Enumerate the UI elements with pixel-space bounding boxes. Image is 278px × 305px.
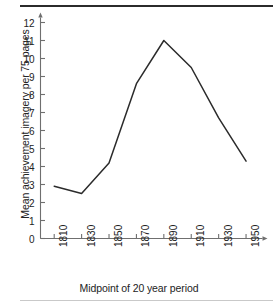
x-axis-arrow-icon <box>263 236 268 240</box>
x-tick-label: 1910 <box>195 224 206 246</box>
x-tick-label: 1950 <box>250 224 261 246</box>
x-tick-label: 1830 <box>86 224 97 246</box>
y-axis-tick-marks <box>41 23 46 239</box>
line-chart-plot <box>0 0 278 305</box>
x-axis-title: Midpoint of 20 year period <box>0 282 278 294</box>
y-tick-label: 12 <box>13 17 35 28</box>
y-axis-title: Mean achievement imagery per 75 pages <box>19 29 31 219</box>
x-tick-label: 1850 <box>113 224 124 246</box>
x-tick-label: 1890 <box>168 224 179 246</box>
x-tick-label: 1870 <box>140 224 151 246</box>
y-tick-label: 0 <box>13 233 35 244</box>
y-axis-arrow-icon <box>38 13 42 18</box>
x-tick-label: 1810 <box>58 224 69 246</box>
x-tick-label: 1930 <box>223 224 234 246</box>
figure-container: 0123456789101112 18101830185018701890191… <box>0 0 278 305</box>
data-series-line <box>54 41 246 194</box>
